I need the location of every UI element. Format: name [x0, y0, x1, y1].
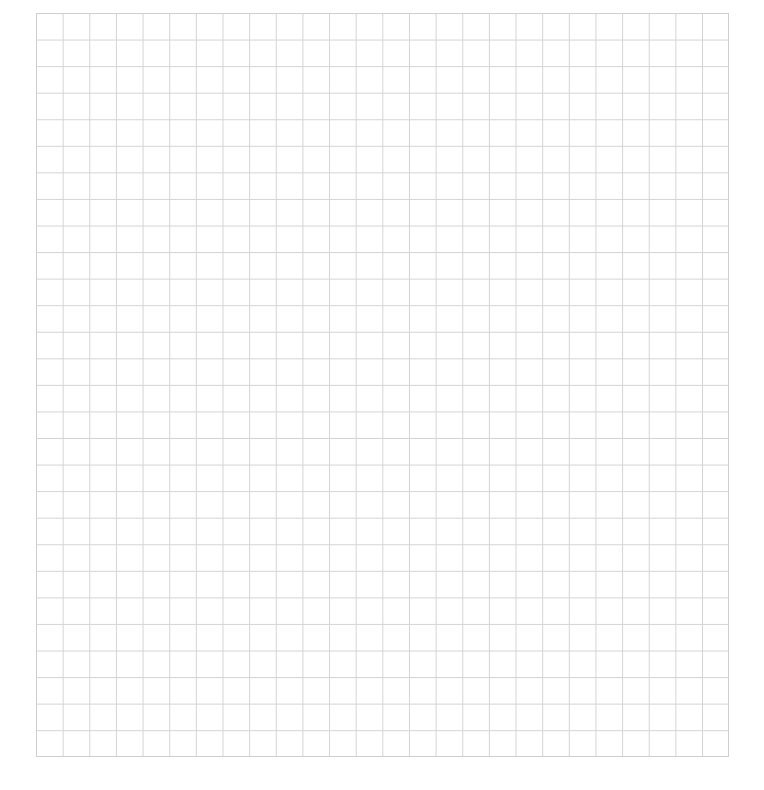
grid-paper	[36, 13, 729, 757]
